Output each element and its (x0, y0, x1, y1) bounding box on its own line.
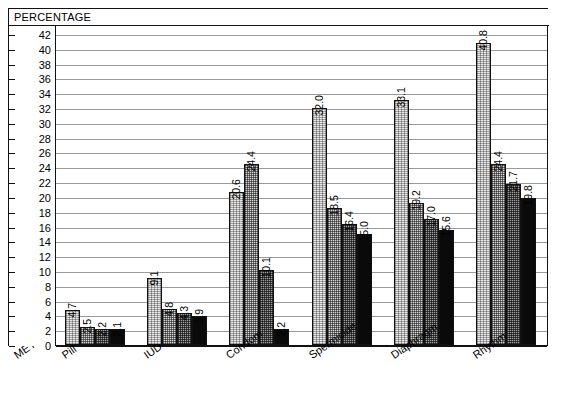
y-axis-tick-mark-8 (9, 287, 15, 288)
bar-value-label-diaphragm-series-1: 33.1 (395, 87, 406, 107)
bar-value-label-iud-series-1: 9.1 (149, 271, 160, 286)
gridline-22 (56, 183, 547, 184)
y-axis-tick-mark-34 (9, 94, 15, 95)
bar-value-label-rhythm-series-4: 19.8 (522, 185, 533, 205)
y-axis-tick-mark-36 (9, 79, 15, 80)
y-axis-tick-mark-16 (9, 228, 15, 229)
gridline-16 (56, 228, 547, 229)
gridline-18 (56, 213, 547, 214)
bar-iud-series-1 (147, 278, 162, 345)
gridline-30 (56, 124, 547, 125)
bar-spermicide-series-4 (357, 234, 372, 345)
y-axis-tick-label-40: 40 (39, 44, 51, 55)
gridline-10 (56, 272, 547, 273)
gridline-40 (56, 50, 547, 51)
bar-diaphragm-series-1 (394, 100, 409, 345)
y-axis-tick-label-0: 0 (45, 341, 51, 352)
y-axis-tick-label-18: 18 (39, 207, 51, 218)
y-axis-tick-mark-28 (9, 139, 15, 140)
y-axis-tick-label-30: 30 (39, 118, 51, 129)
y-axis-tick-mark-24 (9, 168, 15, 169)
gridline-8 (56, 287, 547, 288)
y-axis-tick-column: 424038363432302826242220181614121086420 (9, 26, 56, 346)
gridline-2 (56, 331, 547, 332)
bar-value-label-diaphragm-series-2: 19.2 (410, 190, 421, 210)
bar-value-label-condom-series-2: 24.4 (246, 151, 257, 171)
bar-value-label-diaphragm-series-3: 17.0 (425, 206, 436, 226)
bar-diaphragm-series-4 (439, 230, 454, 346)
bar-rhythm-series-2 (491, 164, 506, 345)
bar-value-label-iud-series-3: 4.3 (179, 306, 190, 321)
bar-value-label-condom-series-1: 20.6 (231, 180, 242, 200)
y-axis-tick-label-36: 36 (39, 74, 51, 85)
gridline-34 (56, 94, 547, 95)
bar-spermicide-series-2 (327, 208, 342, 345)
gridline-14 (56, 242, 547, 243)
y-axis-tick-mark-0 (9, 346, 15, 347)
y-axis-tick-label-16: 16 (39, 222, 51, 233)
y-axis-tick-mark-14 (9, 242, 15, 243)
gridline-0 (56, 346, 547, 347)
bar-value-label-iud-series-4: 3.9 (194, 309, 205, 324)
bar-condom-series-1 (229, 192, 244, 345)
bar-value-label-pill-series-1: 4.7 (67, 303, 78, 318)
gridline-20 (56, 198, 547, 199)
gridline-26 (56, 153, 547, 154)
bar-rhythm-series-4 (521, 198, 536, 345)
y-axis-tick-label-22: 22 (39, 178, 51, 189)
y-axis-tick-mark-6 (9, 302, 15, 303)
bar-value-label-pill-series-2: 2.5 (82, 319, 93, 334)
y-axis-tick-mark-12 (9, 257, 15, 258)
y-axis-tick-mark-30 (9, 124, 15, 125)
bar-diaphragm-series-2 (409, 203, 424, 345)
gridline-42 (56, 35, 547, 36)
y-axis-tick-label-28: 28 (39, 133, 51, 144)
y-axis-tick-label-8: 8 (45, 281, 51, 292)
gridline-32 (56, 109, 547, 110)
y-axis-tick-label-20: 20 (39, 192, 51, 203)
chart-title-box: PERCENTAGE (9, 9, 549, 26)
bar-value-label-rhythm-series-3: 21.7 (507, 171, 518, 191)
gridline-28 (56, 139, 547, 140)
gridline-4 (56, 316, 547, 317)
bar-value-label-diaphragm-series-4: 15.6 (440, 217, 451, 237)
y-axis-tick-mark-2 (9, 331, 15, 332)
bar-value-label-pill-series-3: 2.2 (97, 322, 108, 337)
bar-value-label-spermicide-series-1: 32.0 (313, 95, 324, 115)
y-axis-tick-mark-18 (9, 213, 15, 214)
gridline-12 (56, 257, 547, 258)
bar-value-label-spermicide-series-3: 16.4 (343, 211, 354, 231)
y-axis-tick-mark-22 (9, 183, 15, 184)
gridline-24 (56, 168, 547, 169)
bar-value-label-pill-series-4: 2.1 (112, 322, 123, 337)
bar-value-label-rhythm-series-1: 40.8 (477, 30, 488, 50)
bar-rhythm-series-3 (506, 184, 521, 345)
y-axis-tick-label-26: 26 (39, 148, 51, 159)
y-axis-tick-mark-38 (9, 65, 15, 66)
y-axis-tick-mark-42 (9, 35, 15, 36)
y-axis-tick-label-38: 38 (39, 59, 51, 70)
bar-spermicide-series-1 (312, 108, 327, 345)
y-axis-tick-label-42: 42 (39, 30, 51, 41)
y-axis-tick-label-12: 12 (39, 252, 51, 263)
y-axis-tick-label-14: 14 (39, 237, 51, 248)
y-axis-tick-mark-26 (9, 153, 15, 154)
page-title: PERCENTAGE (14, 11, 91, 23)
y-axis-tick-mark-10 (9, 272, 15, 273)
bar-value-label-iud-series-2: 4.8 (164, 302, 175, 317)
bar-value-label-rhythm-series-2: 24.4 (492, 151, 503, 171)
gridline-36 (56, 79, 547, 80)
y-axis-tick-label-34: 34 (39, 89, 51, 100)
y-axis-tick-label-6: 6 (45, 296, 51, 307)
bar-value-label-condom-series-4: 2.2 (276, 322, 287, 337)
bar-value-label-spermicide-series-4: 15.0 (358, 221, 369, 241)
bar-value-label-spermicide-series-2: 18.5 (328, 195, 339, 215)
chart-frame: PERCENTAGE 42403836343230282624222018161… (8, 8, 548, 346)
bar-value-label-condom-series-3: 10.1 (261, 257, 272, 277)
bar-rhythm-series-1 (476, 43, 491, 345)
y-axis-tick-mark-20 (9, 198, 15, 199)
y-axis-tick-label-10: 10 (39, 266, 51, 277)
gridline-38 (56, 65, 547, 66)
y-axis-tick-mark-40 (9, 50, 15, 51)
y-axis-tick-mark-4 (9, 316, 15, 317)
